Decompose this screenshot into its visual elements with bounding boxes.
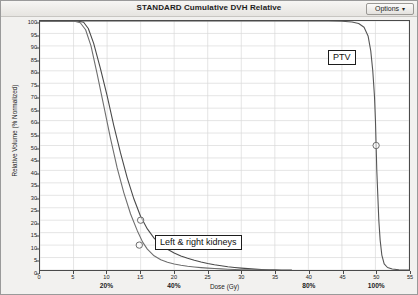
x-tick-mark bbox=[174, 271, 175, 274]
chevron-down-icon: ▾ bbox=[402, 6, 405, 12]
x-tick-mark bbox=[275, 271, 276, 274]
x-tick-label: 20 bbox=[171, 275, 177, 281]
x-tick-mark bbox=[39, 271, 40, 274]
window-titlebar: STANDARD Cumulative DVH Relative Options… bbox=[1, 1, 417, 17]
x-tick-label: 5 bbox=[71, 275, 74, 281]
x-tick-mark bbox=[410, 271, 411, 274]
dose-percent-label: 40% bbox=[167, 282, 180, 289]
annotation-kidneys: Left & right kidneys bbox=[155, 235, 242, 250]
y-tick-label: 0 bbox=[3, 271, 37, 277]
x-tick-mark bbox=[309, 271, 310, 274]
x-tick-mark bbox=[343, 271, 344, 274]
options-button-label: Options bbox=[375, 5, 399, 12]
dose-percent-label: 80% bbox=[302, 282, 315, 289]
y-tick-label: 55 bbox=[3, 133, 37, 139]
dose-percent-annotations: 20%40%80%100% bbox=[39, 282, 410, 294]
y-tick-label: 35 bbox=[3, 183, 37, 189]
x-tick-label: 30 bbox=[238, 275, 244, 281]
y-tick-label: 80 bbox=[3, 70, 37, 76]
x-tick-mark bbox=[140, 271, 141, 274]
y-tick-label: 65 bbox=[3, 108, 37, 114]
y-tick-label: 50 bbox=[3, 146, 37, 152]
x-tick-label: 40 bbox=[306, 275, 312, 281]
y-tick-label: 45 bbox=[3, 158, 37, 164]
x-tick-mark bbox=[376, 271, 377, 274]
y-tick-label: 60 bbox=[3, 121, 37, 127]
y-tick-label: 5 bbox=[3, 259, 37, 265]
y-tick-label: 70 bbox=[3, 96, 37, 102]
options-button[interactable]: Options ▾ bbox=[366, 3, 414, 15]
x-tick-mark bbox=[106, 271, 107, 274]
x-tick-label: 25 bbox=[205, 275, 211, 281]
y-tick-label: 95 bbox=[3, 33, 37, 39]
y-tick-label: 10 bbox=[3, 246, 37, 252]
annotation-ptv: PTV bbox=[328, 50, 356, 65]
y-tick-label: 25 bbox=[3, 208, 37, 214]
y-tick-label: 90 bbox=[3, 45, 37, 51]
dose-percent-label: 20% bbox=[100, 282, 113, 289]
x-tick-mark bbox=[241, 271, 242, 274]
x-tick-label: 50 bbox=[373, 275, 379, 281]
y-tick-label: 85 bbox=[3, 58, 37, 64]
dvh-chart-window: STANDARD Cumulative DVH Relative Options… bbox=[0, 0, 418, 295]
chart-container: 0510152025303540455055606570758085909510… bbox=[2, 17, 416, 293]
dose-percent-label: 100% bbox=[368, 282, 385, 289]
y-axis-ticks: 0510152025303540455055606570758085909510… bbox=[2, 20, 37, 271]
x-tick-label: 55 bbox=[407, 275, 413, 281]
x-tick-label: 35 bbox=[272, 275, 278, 281]
y-tick-label: 20 bbox=[3, 221, 37, 227]
x-tick-label: 10 bbox=[103, 275, 109, 281]
y-tick-label: 40 bbox=[3, 171, 37, 177]
x-tick-label: 45 bbox=[339, 275, 345, 281]
x-tick-mark bbox=[208, 271, 209, 274]
y-tick-label: 15 bbox=[3, 234, 37, 240]
x-tick-label: 15 bbox=[137, 275, 143, 281]
x-tick-label: 0 bbox=[37, 275, 40, 281]
x-tick-mark bbox=[73, 271, 74, 274]
page-title: STANDARD Cumulative DVH Relative bbox=[1, 3, 417, 12]
y-tick-label: 30 bbox=[3, 196, 37, 202]
y-tick-label: 75 bbox=[3, 83, 37, 89]
y-tick-label: 100 bbox=[3, 20, 37, 26]
y-axis-label: Relative Volume (% Normalized) bbox=[11, 61, 18, 201]
